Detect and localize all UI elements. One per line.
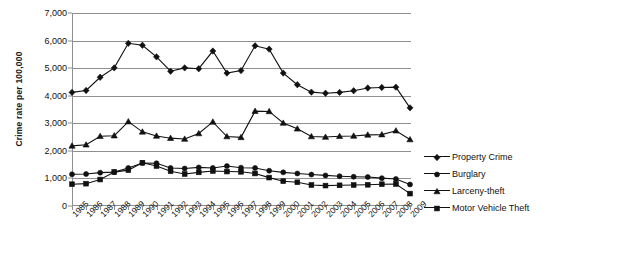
diamond-marker-icon	[424, 151, 450, 163]
legend-label: Burglary	[450, 169, 486, 179]
circle-marker-icon	[424, 168, 450, 180]
square-marker-icon	[424, 202, 450, 214]
legend-label: Motor Vehicle Theft	[450, 203, 529, 213]
data-series-layer	[72, 13, 411, 206]
y-tick-label: 4,000	[44, 91, 67, 101]
series-larceny-theft	[69, 108, 413, 148]
triangle-marker-icon	[424, 185, 450, 197]
legend-label: Larceny-theft	[450, 186, 505, 196]
legend-item[interactable]: Property Crime	[424, 148, 614, 165]
y-tick-label: 7,000	[44, 8, 67, 18]
y-tick-label: 6,000	[44, 36, 67, 46]
legend-item[interactable]: Larceny-theft	[424, 182, 614, 199]
y-tick-label: 5,000	[44, 63, 67, 73]
y-tick-label: 1,000	[44, 173, 67, 183]
plot-area: 01,0002,0003,0004,0005,0006,0007,000 198…	[72, 13, 411, 206]
legend-label: Property Crime	[450, 152, 513, 162]
legend-item[interactable]: Motor Vehicle Theft	[424, 199, 614, 216]
y-tick-label: 3,000	[44, 118, 67, 128]
crime-rate-line-chart: Crime rate per 100,000 01,0002,0003,0004…	[0, 0, 621, 259]
chart-legend: Property CrimeBurglaryLarceny-theftMotor…	[424, 148, 614, 216]
y-tick-label: 2,000	[44, 146, 67, 156]
y-tick-label: 0	[62, 201, 67, 211]
y-axis-title: Crime rate per 100,000	[14, 24, 24, 174]
legend-item[interactable]: Burglary	[424, 165, 614, 182]
series-property-crime	[69, 40, 413, 111]
